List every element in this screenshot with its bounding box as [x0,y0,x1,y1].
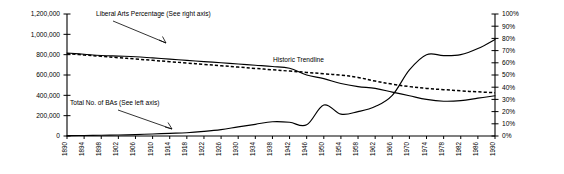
left-axis-tick-label: 600,000 [36,71,60,78]
total-bas-leader-arrow [165,123,172,130]
x-axis-tick-label: 1914 [164,142,171,157]
x-axis-tick-label: 1946 [301,142,308,157]
x-axis-tick-label: 1894 [78,142,85,157]
right-axis-tick-label: 90% [502,23,515,30]
right-axis-tick-label: 70% [502,47,515,54]
right-axis-tick-label: 80% [502,35,515,42]
right-axis-tick-label: 50% [502,71,515,78]
left-axis-tick-label: 0 [56,132,60,139]
x-axis-tick-label: 1970 [403,142,410,157]
left-axis-tick-label: 1,200,000 [31,10,61,17]
x-axis-tick-label: 1898 [95,142,102,157]
left-axis-tick-label: 1,000,000 [31,31,61,38]
x-axis-tick-label: 1938 [266,142,273,157]
x-axis-tick-label: 1978 [438,142,445,157]
x-axis-tick-label: 1910 [147,142,154,157]
left-axis-tick-label: 800,000 [36,51,60,58]
x-axis-tick-label: 1906 [129,142,136,157]
right-axis-tick-label: 100% [502,10,519,17]
x-axis-tick-label: 1890 [61,142,68,157]
left-and-bottom-axis [67,14,495,136]
total-bas-leader-line [118,110,172,129]
right-axis-tick-label: 20% [502,108,515,115]
x-axis-tick-label: 1958 [352,142,359,157]
x-axis-tick-label: 1962 [369,142,376,157]
x-axis-tick-label: 1934 [249,142,256,157]
series-total-bas [67,39,495,135]
total-bas-annotation-label: Total No. of BAs (See left axis) [70,99,159,107]
x-axis-tick-label: 1926 [215,142,222,157]
x-axis-tick-label: 1922 [198,142,205,157]
x-axis-tick-label: 1990 [489,142,496,157]
x-axis-tick-label: 1902 [112,142,119,157]
x-axis-tick-label: 1950 [318,142,325,157]
liberal-arts-annotation-label: Liberal Arts Percentage (See right axis) [96,10,211,18]
x-axis-tick-label: 1954 [335,142,342,157]
x-axis-tick-label: 1918 [181,142,188,157]
x-axis-tick-label: 1966 [386,142,393,157]
dual-axis-line-chart: 0200,000400,000600,000800,0001,000,0001,… [0,0,564,174]
right-axis-tick-label: 10% [502,120,515,127]
x-axis-tick-label: 1974 [421,142,428,157]
x-axis-tick-label: 1982 [455,142,462,157]
liberal-arts-leader-line [113,21,166,43]
left-axis-tick-label: 400,000 [36,92,60,99]
right-axis-tick-label: 0% [502,132,512,139]
liberal-arts-leader-arrow [159,37,166,44]
x-axis-tick-label: 1930 [232,142,239,157]
right-axis-tick-label: 30% [502,96,515,103]
x-axis-tick-label: 1986 [472,142,479,157]
chart-container: 0200,000400,000600,000800,0001,000,0001,… [0,0,564,174]
historic-trendline-annotation-label: Historic Trendline [273,56,324,63]
left-axis-tick-label: 200,000 [36,112,60,119]
x-axis-tick-label: 1942 [284,142,291,157]
right-axis-tick-label: 60% [502,59,515,66]
right-axis-tick-label: 40% [502,84,515,91]
